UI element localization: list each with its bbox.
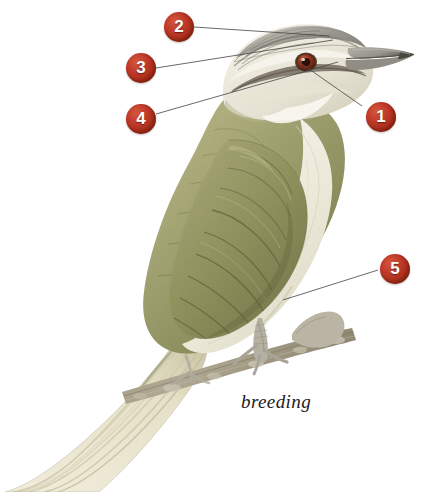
plumage-caption: breeding bbox=[241, 391, 311, 413]
callout-marker-1[interactable]: 1 bbox=[366, 102, 396, 132]
callout-marker-2[interactable]: 2 bbox=[164, 12, 194, 42]
callout-marker-5[interactable]: 5 bbox=[380, 254, 410, 284]
callout-marker-4[interactable]: 4 bbox=[126, 104, 156, 134]
bird-illustration-plate bbox=[0, 0, 429, 492]
callout-marker-3[interactable]: 3 bbox=[126, 53, 156, 83]
